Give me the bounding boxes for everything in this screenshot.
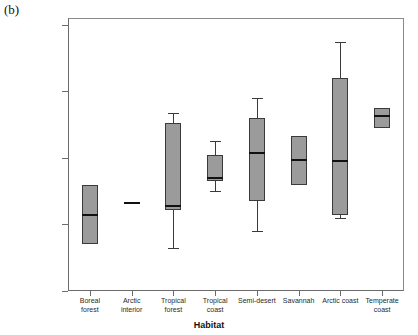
- box-iqr: [332, 78, 348, 214]
- whisker-upper: [173, 113, 174, 123]
- boxplot-figure: (b) Band Size .0020.0040.0060.0080.00 Bo…: [0, 0, 418, 335]
- whisker-lower: [215, 181, 216, 191]
- whisker-lower: [173, 210, 174, 248]
- whisker-cap-lower: [210, 191, 221, 192]
- x-tick-mark: [215, 291, 216, 296]
- y-tick-mark: [62, 224, 68, 225]
- whisker-upper: [340, 42, 341, 79]
- x-tick-mark: [173, 291, 174, 296]
- box-iqr: [249, 118, 265, 201]
- box-median-line: [249, 152, 265, 154]
- box-median-line: [124, 202, 140, 204]
- y-tick-mark: [62, 291, 68, 292]
- y-tick-mark: [62, 25, 68, 26]
- panel-label: (b): [4, 2, 19, 18]
- whisker-lower: [257, 201, 258, 231]
- box-median-line: [207, 177, 223, 179]
- x-tick-mark: [90, 291, 91, 296]
- x-tick-label: Temperatecoast: [355, 297, 409, 314]
- whisker-cap-lower: [168, 248, 179, 249]
- y-tick-mark: [62, 158, 68, 159]
- whisker-cap-upper: [210, 141, 221, 142]
- box-median-line: [165, 205, 181, 207]
- x-tick-mark: [340, 291, 341, 296]
- box-median-line: [374, 115, 390, 117]
- whisker-cap-lower: [335, 218, 346, 219]
- whisker-cap-upper: [252, 98, 263, 99]
- whisker-cap-upper: [168, 113, 179, 114]
- box-iqr: [374, 108, 390, 128]
- whisker-upper: [215, 141, 216, 154]
- x-tick-mark: [257, 291, 258, 296]
- whisker-upper: [257, 98, 258, 118]
- x-tick-mark: [299, 291, 300, 296]
- x-tick-mark: [132, 291, 133, 296]
- box-median-line: [82, 214, 98, 216]
- box-iqr: [165, 123, 181, 209]
- box-median-line: [291, 159, 307, 161]
- x-tick-mark: [382, 291, 383, 296]
- box-median-line: [332, 160, 348, 162]
- whisker-cap-upper: [335, 42, 346, 43]
- plot-area: [68, 18, 404, 291]
- x-axis-label: Habitat: [0, 320, 418, 330]
- whisker-cap-lower: [252, 231, 263, 232]
- y-tick-mark: [62, 91, 68, 92]
